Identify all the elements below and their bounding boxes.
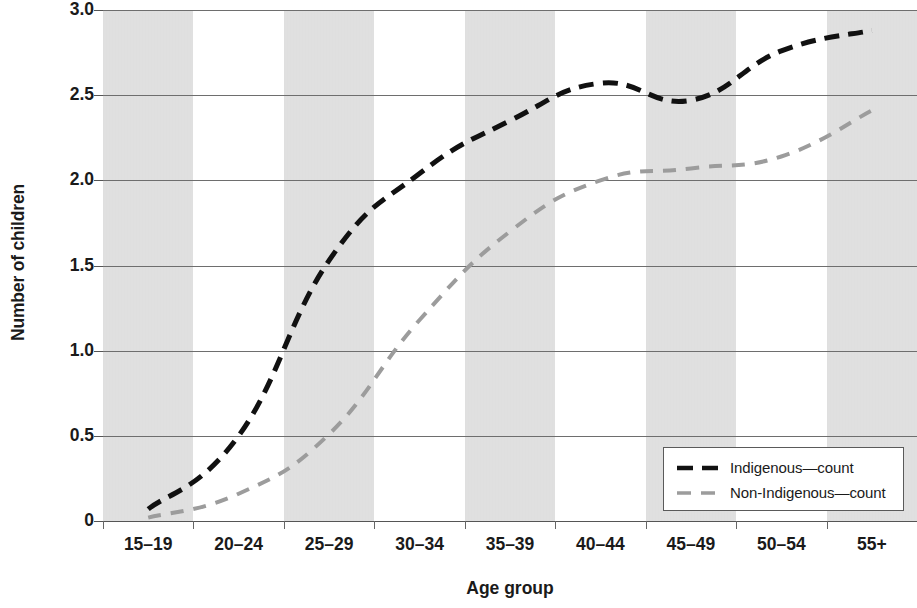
x-axis-tick-label: 30–34 [395, 536, 444, 554]
x-axis-tick-label: 55+ [857, 536, 887, 554]
legend-label-indigenous: Indigenous—count [730, 459, 854, 476]
x-axis-tick-label: 15–19 [124, 536, 173, 554]
x-axis-tick-mark [465, 521, 466, 529]
series-layer [103, 10, 917, 521]
y-axis-tick-mark [94, 521, 103, 522]
plot-area [103, 10, 917, 521]
x-axis-tick-label: 25–29 [305, 536, 354, 554]
legend-swatch-non-indigenous [676, 487, 720, 499]
y-axis-tick-label: 3.0 [38, 1, 94, 19]
x-axis-line [94, 521, 917, 522]
legend-entry-non-indigenous: Non-Indigenous—count [664, 480, 903, 505]
y-axis-tick-labels: 3.02.52.01.51.00.50 [34, 0, 94, 608]
x-axis-tick-mark [284, 521, 285, 529]
x-axis-tick-label: 35–39 [486, 536, 535, 554]
y-axis-tick-mark [94, 10, 103, 11]
y-axis-tick-mark [94, 266, 103, 267]
chart-figure: Number of children 3.02.52.01.51.00.50 1… [0, 0, 917, 608]
x-axis-tick-mark [736, 521, 737, 529]
y-axis-tick-label: 1.0 [38, 342, 94, 360]
y-axis-tick-label: 0.5 [38, 427, 94, 445]
x-axis-tick-labels: 15–1920–2425–2930–3435–3940–4445–4950–54… [103, 536, 917, 562]
x-axis-title: Age group [103, 578, 917, 599]
legend-entry-indigenous: Indigenous—count [664, 455, 903, 480]
y-axis-title-text: Number of children [8, 184, 29, 341]
y-axis-tick-label: 2.5 [38, 86, 94, 104]
x-axis-tick-mark [555, 521, 556, 529]
y-axis-tick-label: 0 [38, 512, 94, 530]
chart-legend: Indigenous—count Non-Indigenous—count [663, 447, 904, 511]
x-axis-tick-mark [193, 521, 194, 529]
x-axis-tick-mark [374, 521, 375, 529]
y-axis-tick-mark [94, 436, 103, 437]
y-axis-tick-mark [94, 351, 103, 352]
x-axis-tick-mark [646, 521, 647, 529]
y-axis-tick-mark [94, 180, 103, 181]
y-axis-tick-mark [94, 95, 103, 96]
series-line-indigenous [148, 30, 872, 509]
x-axis-tick-label: 45–49 [667, 536, 716, 554]
legend-swatch-indigenous [676, 462, 720, 474]
legend-label-non-indigenous: Non-Indigenous—count [730, 484, 886, 501]
x-axis-tick-label: 50–54 [757, 536, 806, 554]
y-axis-tick-label: 2.0 [38, 172, 94, 190]
x-axis-tick-label: 20–24 [214, 536, 263, 554]
y-axis-title: Number of children [0, 0, 36, 525]
y-axis-tick-label: 1.5 [38, 257, 94, 275]
x-axis-tick-mark [827, 521, 828, 529]
x-axis-tick-mark [103, 521, 104, 529]
x-axis-tick-label: 40–44 [576, 536, 625, 554]
